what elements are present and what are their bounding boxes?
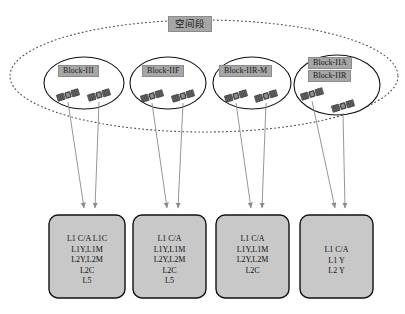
block-label-block-iir: Block-IIR [308,70,351,82]
signal-line: L2C [216,266,289,277]
signal-list-signals-block-iii: L1 C/A L1CL1Y,L1ML2Y,L2ML2CL5 [49,234,125,287]
space-segment-label: 空间段 [168,16,212,32]
signal-line: L1Y,L1M [216,245,289,256]
signal-line: L1Y,L1M [133,245,206,256]
block-label-block-iii: Block-III [58,65,99,77]
signal-arrow [236,103,251,208]
signal-arrow [262,103,266,208]
signal-arrow [178,103,183,208]
signal-line: L2Y,L2M [216,255,289,266]
signal-line: L2Y,L2M [133,255,206,266]
block-label-block-iir-m: Block-IIR-M [219,65,272,77]
signal-line: L2C [49,266,125,277]
signal-line: L5 [49,276,125,287]
signal-line: L1Y,L1M [49,245,125,256]
signal-arrow [95,102,99,208]
signal-line: L1 C/A [300,245,373,256]
signal-line: L1 C/A L1C [49,234,125,245]
signal-line: L1 C/A [216,234,289,245]
signal-list-signals-block-iia: L1 C/AL1 YL2 Y [300,245,373,277]
signal-line: L1 C/A [133,234,206,245]
signal-arrow [343,113,345,208]
signal-list-signals-block-iir-m: L1 C/AL1Y,L1ML2Y,L2ML2C [216,234,289,276]
signal-line: L2C [133,266,206,277]
diagram-canvas: 空间段 Block-III Block-IIF Block-IIR-M Bloc… [0,0,405,314]
block-label-block-iif: Block-IIF [142,65,184,77]
signal-line: L2Y,L2M [49,255,125,266]
signal-arrow [312,101,335,208]
signal-arrow [152,103,167,208]
signal-line: L2 Y [300,266,373,277]
signal-line: L1 Y [300,256,373,267]
block-label-block-iia: Block-IIA [308,57,352,69]
signal-line: L5 [133,276,206,287]
signal-list-signals-block-iif: L1 C/AL1Y,L1ML2Y,L2ML2CL5 [133,234,206,287]
